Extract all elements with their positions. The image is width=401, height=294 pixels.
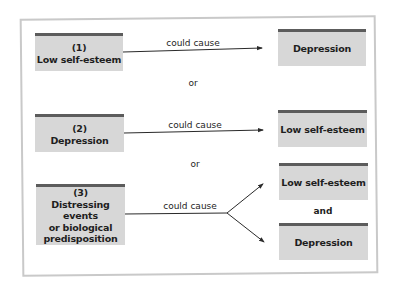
cause-number: (1) bbox=[72, 42, 87, 54]
cause-label-line-3: predisposition bbox=[43, 233, 117, 245]
relation-label: could cause bbox=[166, 38, 220, 48]
cause-label: Depression bbox=[50, 135, 108, 147]
cause-label-line-1: Distressing events bbox=[36, 199, 125, 222]
cause-number: (3) bbox=[73, 187, 88, 199]
arrow-row-3-stem bbox=[124, 213, 227, 214]
arrow-row-2 bbox=[124, 130, 263, 133]
effect-box-low-self-esteem: Low self-esteem bbox=[278, 110, 367, 147]
arrow-row-3-down bbox=[227, 213, 264, 242]
effect-label: Depression bbox=[293, 43, 351, 55]
cause-label-line-2: or biological bbox=[49, 222, 113, 234]
effect-label: Low self-esteem bbox=[281, 177, 365, 189]
cause-box-3: (3) Distressing events or biological pre… bbox=[36, 184, 125, 245]
effect-box-low-self-esteem: Low self-esteem bbox=[279, 163, 368, 200]
effects-joiner-and: and bbox=[314, 206, 333, 216]
effect-box-depression: Depression bbox=[278, 29, 366, 66]
effect-label: Low self-esteem bbox=[280, 124, 364, 136]
arrow-row-1 bbox=[123, 48, 262, 52]
cause-number: (2) bbox=[72, 123, 87, 135]
arrow-row-3-up bbox=[227, 184, 263, 213]
effect-label: Depression bbox=[294, 237, 352, 249]
cause-box-1: (1) Low self-esteem bbox=[35, 33, 123, 71]
relation-label: could cause bbox=[168, 120, 222, 130]
cause-label: Low self-esteem bbox=[37, 54, 121, 66]
relation-label: could cause bbox=[163, 201, 217, 211]
separator-or: or bbox=[188, 78, 197, 88]
separator-or: or bbox=[190, 159, 199, 169]
effect-box-depression: Depression bbox=[279, 223, 368, 260]
cause-box-2: (2) Depression bbox=[35, 114, 124, 152]
